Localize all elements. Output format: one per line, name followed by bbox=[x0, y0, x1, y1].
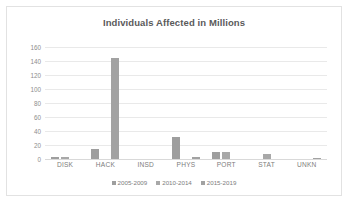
legend-item[interactable]: 2005-2009 bbox=[112, 179, 148, 186]
bar-group bbox=[45, 47, 85, 159]
legend-swatch-icon bbox=[156, 181, 160, 185]
y-axis-tick-label: 40 bbox=[34, 128, 41, 135]
bar-group bbox=[166, 47, 206, 159]
chart-title: Individuals Affected in Millions bbox=[7, 17, 341, 28]
bar[interactable] bbox=[212, 152, 220, 159]
legend-swatch-icon bbox=[112, 181, 116, 185]
legend-label: 2015-2019 bbox=[207, 179, 237, 186]
bar[interactable] bbox=[172, 137, 180, 159]
legend-label: 2010-2014 bbox=[162, 179, 192, 186]
legend-item[interactable]: 2010-2014 bbox=[156, 179, 192, 186]
bar[interactable] bbox=[51, 157, 59, 159]
y-axis-tick-label: 0 bbox=[37, 156, 41, 163]
legend-item[interactable]: 2015-2019 bbox=[201, 179, 237, 186]
x-axis-tick-label: PORT bbox=[206, 161, 246, 168]
bar[interactable] bbox=[313, 158, 321, 159]
y-axis-tick-label: 80 bbox=[34, 100, 41, 107]
bar[interactable] bbox=[222, 152, 230, 159]
bar-group bbox=[246, 47, 286, 159]
x-axis-tick-label: HACK bbox=[85, 161, 125, 168]
y-axis-tick-label: 140 bbox=[30, 58, 41, 65]
bar-group bbox=[126, 47, 166, 159]
chart-legend: 2005-20092010-20142015-2019 bbox=[7, 179, 341, 186]
x-axis-labels: DISKHACKINSDPHYSPORTSTATUNKN bbox=[45, 161, 327, 168]
plot-area: 160140120100806040200 bbox=[45, 47, 327, 159]
x-axis-tick-label: UNKN bbox=[287, 161, 327, 168]
bar-groups bbox=[45, 47, 327, 159]
y-axis-tick-label: 160 bbox=[30, 44, 41, 51]
bar[interactable] bbox=[111, 58, 119, 160]
bar[interactable] bbox=[61, 157, 69, 159]
chart-frame: Individuals Affected in Millions 1601401… bbox=[6, 6, 342, 196]
y-axis-tick-label: 100 bbox=[30, 86, 41, 93]
y-axis-tick-label: 20 bbox=[34, 142, 41, 149]
x-axis-tick-label: INSD bbox=[126, 161, 166, 168]
y-axis-tick-label: 60 bbox=[34, 114, 41, 121]
legend-swatch-icon bbox=[201, 181, 205, 185]
x-axis-tick-label: PHYS bbox=[166, 161, 206, 168]
bar-group bbox=[287, 47, 327, 159]
bar-group bbox=[85, 47, 125, 159]
bar-group bbox=[206, 47, 246, 159]
bar[interactable] bbox=[192, 157, 200, 159]
bar[interactable] bbox=[263, 154, 271, 159]
x-axis-tick-label: DISK bbox=[45, 161, 85, 168]
gridline-0: 0 bbox=[45, 159, 327, 160]
y-axis-tick-label: 120 bbox=[30, 72, 41, 79]
x-axis-tick-label: STAT bbox=[246, 161, 286, 168]
bar[interactable] bbox=[91, 149, 99, 159]
legend-label: 2005-2009 bbox=[118, 179, 148, 186]
